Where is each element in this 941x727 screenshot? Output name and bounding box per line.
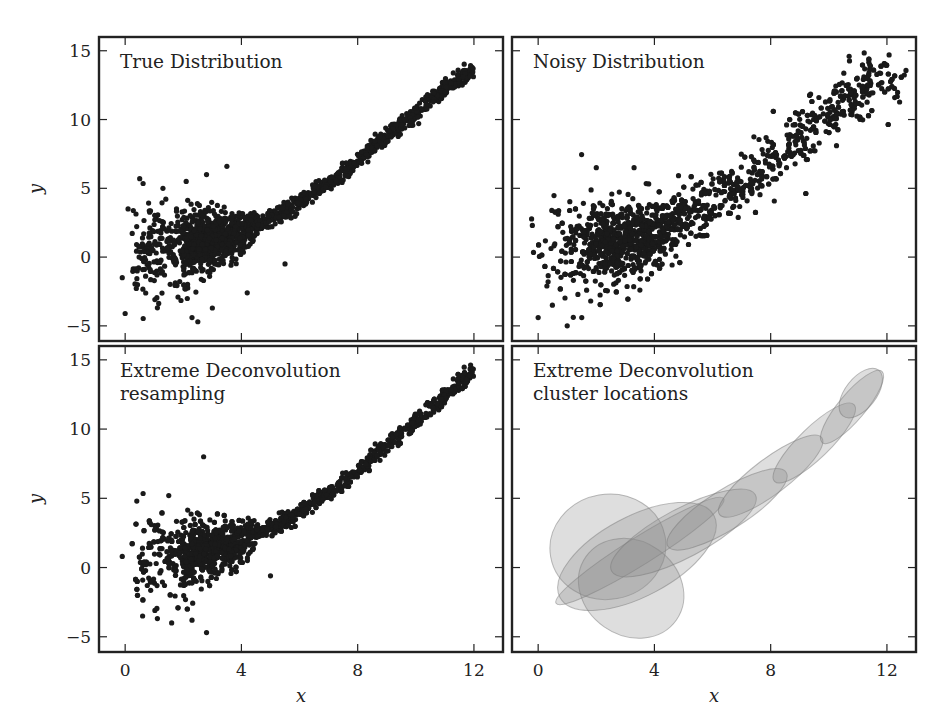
panel-top-left: −5051015True Distributiony: [25, 37, 503, 341]
outlier-point: [140, 613, 145, 618]
outlier-point: [169, 620, 174, 625]
outlier-point: [134, 498, 139, 503]
x-tick-label: 8: [765, 660, 776, 680]
panel-top-right: Noisy Distribution: [512, 37, 916, 341]
x-tick-label: 8: [352, 660, 363, 680]
x-tick-label: 12: [463, 660, 485, 680]
x-axis-label: x: [709, 685, 719, 706]
y-tick-label: 5: [80, 178, 91, 198]
panel-title: cluster locations: [533, 383, 688, 404]
outlier-point: [224, 164, 229, 169]
outlier-point: [204, 172, 209, 177]
outlier-point: [160, 186, 165, 191]
outlier-point: [245, 290, 250, 295]
outlier-point: [565, 323, 570, 328]
outlier-point: [137, 176, 142, 181]
outlier-point: [125, 206, 130, 211]
x-tick-label: 4: [649, 660, 660, 680]
y-tick-label: 15: [69, 350, 91, 370]
x-tick-label: 0: [533, 660, 544, 680]
outlier-point: [282, 261, 287, 266]
outlier-point: [847, 54, 852, 59]
panel-title: True Distribution: [120, 51, 283, 72]
outlier-point: [579, 315, 584, 320]
y-tick-label: 0: [80, 558, 91, 578]
outlier-point: [184, 179, 189, 184]
outlier-point: [201, 454, 206, 459]
figure: −5051015True DistributionyNoisy Distribu…: [0, 0, 941, 727]
outlier-point: [631, 165, 636, 170]
outlier-point: [536, 315, 541, 320]
panel-title: Extreme Deconvolution: [120, 360, 341, 381]
outlier-point: [637, 288, 642, 293]
x-tick-label: 4: [236, 660, 247, 680]
y-axis-label: y: [25, 183, 46, 195]
outlier-point: [544, 283, 549, 288]
outlier-point: [189, 618, 194, 623]
outlier-point: [195, 319, 200, 324]
outlier-point: [166, 493, 171, 498]
outlier-point: [530, 223, 535, 228]
y-tick-label: −5: [66, 316, 91, 336]
outlier-point: [204, 630, 209, 635]
panel-bottom-left: 04812−5051015Extreme Deconvolutionresamp…: [25, 346, 503, 706]
plot-area: [541, 361, 892, 659]
y-tick-label: 10: [69, 419, 91, 439]
outlier-point: [120, 275, 125, 280]
y-tick-label: 5: [80, 488, 91, 508]
panel-bottom-right: 04812Extreme Deconvolutioncluster locati…: [512, 346, 916, 706]
outlier-point: [120, 554, 125, 559]
outlier-point: [594, 165, 599, 170]
plot-area: [529, 50, 909, 328]
panel-title: resampling: [120, 383, 225, 404]
x-tick-label: 12: [876, 660, 898, 680]
panel-title: Extreme Deconvolution: [533, 360, 754, 381]
y-tick-label: 0: [80, 247, 91, 267]
x-axis-label: x: [296, 685, 306, 706]
y-tick-label: −5: [66, 627, 91, 647]
outlier-point: [123, 311, 128, 316]
x-tick-label: 0: [120, 660, 131, 680]
outlier-point: [268, 573, 273, 578]
outlier-point: [189, 315, 194, 320]
plot-area: [120, 62, 476, 325]
y-tick-label: 15: [69, 41, 91, 61]
panel-title: Noisy Distribution: [533, 51, 705, 72]
y-tick-label: 10: [69, 110, 91, 130]
y-axis-label: y: [25, 493, 46, 505]
outlier-point: [210, 305, 215, 310]
